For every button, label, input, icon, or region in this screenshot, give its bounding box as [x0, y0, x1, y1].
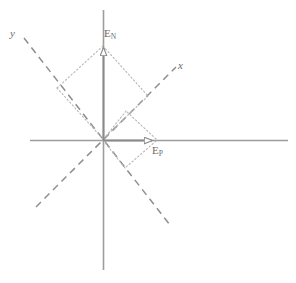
label-axis-y: y — [10, 28, 15, 39]
en-projection-right-lower — [103, 96, 148, 139]
rotated-axes — [24, 38, 176, 225]
ep-projection-upper-outer — [126, 111, 156, 139]
label-e-n-base: E — [104, 27, 111, 39]
label-axis-x: x — [178, 60, 183, 71]
vectors — [103, 48, 152, 141]
label-e-p: EP — [152, 145, 163, 156]
figure-canvas — [0, 0, 296, 283]
en-projection-left-upper — [57, 46, 103, 88]
en-projection-right-upper — [103, 46, 148, 96]
en-projection-left-lower — [57, 88, 103, 139]
ep-projection-upper-inner — [103, 111, 126, 140]
ep-construction-lines — [103, 111, 156, 168]
reference-axes — [30, 10, 288, 270]
label-e-p-subscript: P — [159, 149, 163, 158]
label-e-p-base: E — [152, 144, 159, 156]
label-e-n: EN — [104, 28, 116, 39]
en-construction-lines — [57, 46, 148, 139]
label-e-n-subscript: N — [111, 32, 116, 41]
vector-decomposition-figure: EN EP x y — [0, 0, 296, 283]
